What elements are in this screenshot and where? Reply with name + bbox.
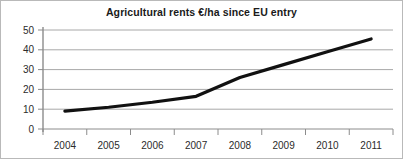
y-tick-label-30: 30 [23,64,35,75]
x-tick-label-2010: 2010 [316,140,339,151]
gridlines [43,30,393,109]
x-tick-label-2006: 2006 [141,140,164,151]
x-tick-label-2005: 2005 [97,140,120,151]
x-axis-labels: 2004 2005 2006 2007 2008 2009 2010 2011 [54,140,383,151]
y-tick-label-50: 50 [23,25,35,36]
x-tick-label-2011: 2011 [360,140,382,151]
chart-figure: Agricultural rents €/ha since EU entry 5… [0,0,403,159]
y-tick-label-10: 10 [23,104,35,115]
x-tick-marks [43,129,393,135]
y-tick-label-40: 40 [23,44,35,55]
y-tick-marks [38,30,43,129]
x-tick-label-2004: 2004 [54,140,77,151]
y-tick-label-20: 20 [23,84,35,95]
y-tick-label-0: 0 [28,124,34,135]
y-axis-labels: 50 40 30 20 10 0 [23,25,35,135]
line-chart-plot: 50 40 30 20 10 0 2004 2005 2006 2007 200… [1,1,403,159]
x-tick-label-2009: 2009 [272,140,295,151]
x-tick-label-2008: 2008 [229,140,252,151]
x-tick-label-2007: 2007 [185,140,208,151]
